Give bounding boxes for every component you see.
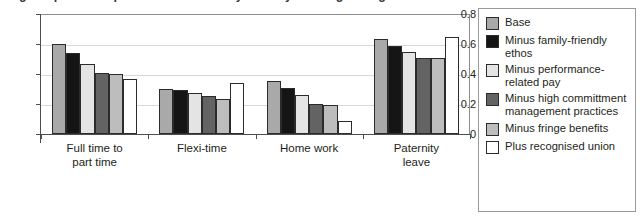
bar (173, 90, 187, 134)
y-tick-mark (36, 104, 40, 105)
bar (230, 83, 244, 134)
legend-swatch-icon (486, 64, 499, 77)
bars-layer (41, 14, 470, 134)
legend-item[interactable]: Minus performance-related pay (486, 63, 630, 88)
bar (416, 58, 430, 134)
bar (188, 93, 202, 134)
x-axis-category-label: Full time topart time (41, 142, 148, 169)
legend-swatch-icon (486, 17, 499, 30)
bar (281, 88, 295, 134)
y-tick-mark (36, 14, 40, 15)
bar (309, 104, 323, 134)
bar (66, 53, 80, 134)
legend-label: Minus high committment management practi… (505, 92, 630, 117)
legend-label: Minus family-friendly ethos (505, 34, 630, 59)
bar (109, 74, 123, 134)
x-axis-category-label: Flexi-time (148, 142, 255, 156)
bar (267, 81, 281, 134)
chart-page: Figure: predicted probabilities of famil… (0, 0, 640, 218)
bar-group (41, 14, 148, 134)
x-axis-category-label: Paternityleave (363, 142, 470, 169)
x-tick-mark (148, 134, 149, 139)
x-tick-mark (470, 134, 471, 139)
bar-chart: 00.20.40.60.8 Full time topart timeFlexi… (0, 6, 476, 206)
bar (295, 95, 309, 134)
legend-label: Minus fringe benefits (505, 122, 608, 135)
y-tick-mark (36, 134, 40, 135)
legend-item[interactable]: Base (486, 16, 630, 30)
x-tick-mark (256, 134, 257, 139)
legend-label: Minus performance-related pay (505, 63, 630, 88)
chart-legend: BaseMinus family-friendly ethosMinus per… (478, 8, 636, 212)
x-tick-mark (363, 134, 364, 139)
bar (216, 99, 230, 134)
bar (445, 37, 459, 134)
bar (431, 58, 445, 134)
bar (202, 96, 216, 134)
legend-label: Plus recognised union (505, 140, 615, 153)
bar (374, 39, 388, 134)
bar (95, 73, 109, 134)
bar-group (148, 14, 255, 134)
bar-group (363, 14, 470, 134)
legend-item[interactable]: Minus fringe benefits (486, 122, 630, 136)
y-tick-mark (36, 74, 40, 75)
legend-item[interactable]: Minus high committment management practi… (486, 92, 630, 117)
legend-item[interactable]: Minus family-friendly ethos (486, 34, 630, 59)
legend-swatch-icon (486, 141, 499, 154)
x-tick-mark (41, 134, 42, 139)
bar (80, 64, 94, 134)
bar (123, 79, 137, 134)
legend-swatch-icon (486, 123, 499, 136)
chart-title-text: Figure: predicted probabilities of famil… (8, 0, 430, 2)
bar (323, 105, 337, 134)
legend-item[interactable]: Plus recognised union (486, 140, 630, 154)
x-axis-category-label: Home work (256, 142, 363, 156)
bar (388, 46, 402, 134)
legend-swatch-icon (486, 93, 499, 106)
bar (338, 121, 352, 134)
bar (159, 89, 173, 134)
bar (402, 52, 416, 134)
bar-group (256, 14, 363, 134)
legend-label: Base (505, 16, 531, 29)
bar (52, 44, 66, 134)
y-tick-mark (36, 44, 40, 45)
legend-swatch-icon (486, 35, 499, 48)
